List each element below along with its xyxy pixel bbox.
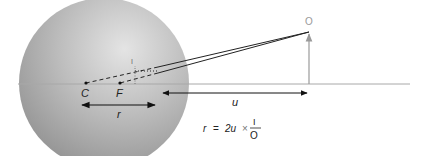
formula-numerator: I xyxy=(253,117,256,127)
convex-mirror-diagram: O I C F r u r = 2u × I O xyxy=(0,0,425,156)
center-point xyxy=(84,81,87,84)
formula-lhs: r xyxy=(203,123,207,134)
formula-times: × xyxy=(242,123,248,134)
formula-denominator: O xyxy=(250,130,258,141)
image-label: I xyxy=(131,58,133,65)
distance-label: u xyxy=(232,96,238,108)
focus-point xyxy=(118,81,121,84)
object-label: O xyxy=(305,16,313,27)
formula-term: 2u xyxy=(224,123,237,134)
cornea-sphere xyxy=(19,0,189,156)
formula: r = 2u × I O xyxy=(203,117,261,141)
center-label: C xyxy=(81,87,89,99)
formula-equals: = xyxy=(213,123,219,134)
